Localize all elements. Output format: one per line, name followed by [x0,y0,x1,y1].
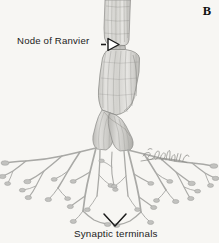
panel-letter-b: B [203,5,211,18]
label-synaptic-terminals: Synaptic terminals [74,229,158,239]
label-node-of-ranvier: Node of Ranvier [17,36,89,46]
neuron-figure-panel: Node of Ranvier Synaptic terminals B [0,0,219,243]
